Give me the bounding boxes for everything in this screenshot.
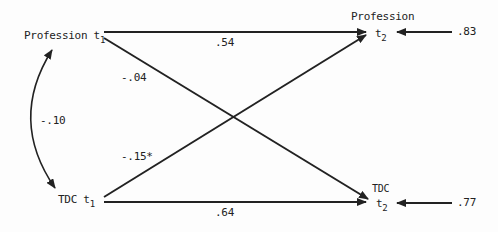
coef-correlation: -.10 <box>40 114 65 127</box>
node-profession-t1: Profession t1 <box>24 29 105 42</box>
node-tdc-t1: TDC t1 <box>58 193 95 206</box>
residual-prof2: .83 <box>457 25 476 38</box>
node-tdc-t2-time: t2 <box>376 197 387 210</box>
node-profession-t2-time: t2 <box>375 27 386 40</box>
node-tdc-t2-name: TDC <box>372 183 389 194</box>
coef-tdc1-tdc2: .64 <box>215 206 234 219</box>
coef-prof1-tdc2: -.04 <box>121 71 146 84</box>
coef-tdc1-prof2: -.15* <box>121 150 153 163</box>
residual-tdc2: .77 <box>457 196 476 209</box>
coef-prof1-prof2: .54 <box>215 36 234 49</box>
path-prof1-tdc2 <box>104 38 368 199</box>
node-profession-t2-name: Profession <box>351 10 414 23</box>
